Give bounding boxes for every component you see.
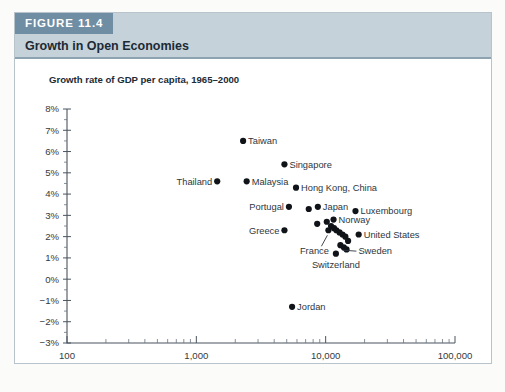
y-tick-label: 1% — [45, 252, 59, 263]
data-point-label: Greece — [249, 226, 280, 236]
y-tick-label: 7% — [45, 125, 59, 136]
data-point-label: France — [300, 246, 329, 256]
x-tick-label: 1,000 — [184, 350, 208, 361]
data-point[interactable] — [345, 238, 351, 244]
data-point-label: Sweden — [358, 246, 392, 256]
data-point-label: Hong Kong, China — [301, 183, 378, 193]
data-point[interactable] — [352, 208, 358, 214]
data-point-label: United States — [364, 230, 420, 240]
y-tick-label: 3% — [45, 210, 59, 221]
x-tick-label: 100,000 — [438, 350, 473, 361]
y-tick-label: 4% — [45, 188, 59, 199]
data-point[interactable] — [314, 221, 320, 227]
figure-number-tab: FIGURE 11.4 — [15, 13, 113, 34]
data-point[interactable] — [293, 185, 299, 191]
data-point-label: Taiwan — [248, 136, 277, 146]
y-tick-label: −3% — [40, 337, 60, 348]
y-axis-title: Growth rate of GDP per capita, 1965–2000 — [49, 74, 239, 85]
data-point[interactable] — [240, 138, 246, 144]
data-point[interactable] — [325, 227, 331, 233]
y-tick-label: 2% — [45, 231, 59, 242]
data-point-label: Switzerland — [312, 260, 360, 270]
label-leader-line — [321, 235, 327, 246]
data-point[interactable] — [356, 231, 362, 237]
data-point-label: Japan — [323, 202, 348, 212]
x-tick-label: 100 — [59, 350, 75, 361]
data-point-label: Malaysia — [252, 177, 290, 187]
y-tick-label: −2% — [40, 316, 60, 327]
data-point[interactable] — [281, 161, 287, 167]
data-point[interactable] — [306, 206, 312, 212]
data-point[interactable] — [330, 217, 336, 223]
data-point-label: Jordan — [297, 302, 325, 312]
data-point[interactable] — [333, 251, 339, 257]
data-point[interactable] — [343, 246, 349, 252]
data-point[interactable] — [281, 227, 287, 233]
y-tick-label: 5% — [45, 167, 59, 178]
data-point[interactable] — [214, 178, 220, 184]
figure-title: Growth in Open Economies — [25, 36, 189, 57]
data-point[interactable] — [289, 304, 295, 310]
data-point-label: Portugal — [249, 202, 284, 212]
data-point-label: Singapore — [289, 160, 331, 170]
scatter-chart: Growth rate of GDP per capita, 1965–2000… — [15, 59, 493, 365]
y-tick-label: −1% — [40, 295, 60, 306]
figure-header: FIGURE 11.4 Growth in Open Economies — [15, 13, 491, 58]
data-point-label: Thailand — [177, 177, 213, 187]
data-point[interactable] — [286, 204, 292, 210]
y-tick-label: 0% — [45, 274, 59, 285]
figure-root: FIGURE 11.4 Growth in Open Economies Gro… — [0, 0, 505, 392]
data-point[interactable] — [315, 204, 321, 210]
y-tick-label: 8% — [45, 103, 59, 114]
figure-card: FIGURE 11.4 Growth in Open Economies Gro… — [14, 12, 492, 364]
data-point[interactable] — [244, 178, 250, 184]
plot-region: Growth rate of GDP per capita, 1965–2000… — [15, 59, 491, 363]
x-tick-label: 10,000 — [311, 350, 340, 361]
y-tick-label: 6% — [45, 146, 59, 157]
data-point[interactable] — [337, 242, 343, 248]
data-point-label: Norway — [339, 215, 371, 225]
